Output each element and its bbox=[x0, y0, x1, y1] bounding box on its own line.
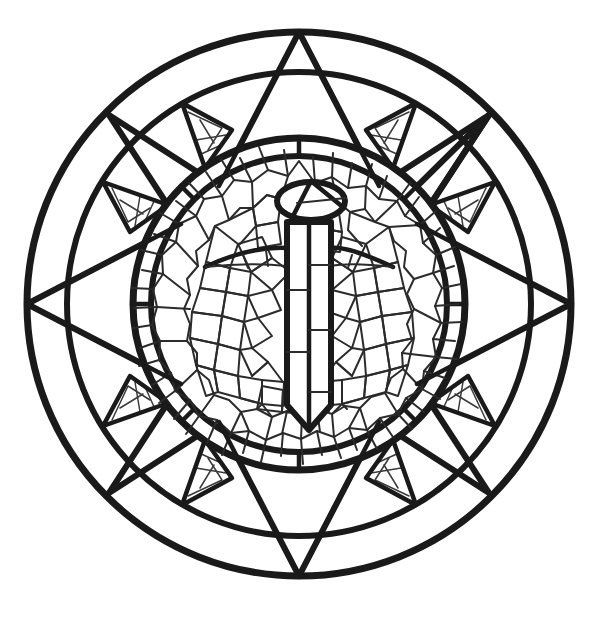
artwork-canvas: Stained Glass Rose Window Mandala Colori… bbox=[0, 0, 597, 624]
mandala-illustration bbox=[0, 0, 597, 624]
sword-hotspot[interactable] bbox=[287, 222, 331, 430]
halo-hotspot[interactable] bbox=[277, 182, 345, 220]
